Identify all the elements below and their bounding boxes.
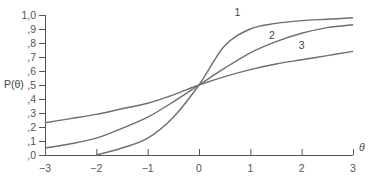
- y-tick-label: 1,0: [21, 9, 36, 21]
- x-tick-label: −1: [142, 162, 154, 174]
- y-tick-label: ,3: [27, 107, 36, 119]
- curves: 123: [45, 6, 353, 155]
- y-axis-ticks: ,0,1,2,3,4,5,6,7,8,91,0: [21, 9, 45, 161]
- x-tick-label: −2: [90, 162, 102, 174]
- curve-label-1: 1: [235, 6, 241, 18]
- y-tick-label: ,7: [27, 51, 36, 63]
- y-tick-label: ,6: [27, 65, 36, 77]
- icc-chart: ,0,1,2,3,4,5,6,7,8,91,0 −3−2−10123 P(θ) …: [0, 0, 368, 182]
- y-tick-label: ,4: [27, 93, 36, 105]
- x-tick-label: 1: [247, 162, 253, 174]
- y-tick-label: ,9: [27, 23, 36, 35]
- x-tick-label: 3: [350, 162, 356, 174]
- x-axis-title: θ: [359, 141, 365, 153]
- curve-label-3: 3: [299, 39, 305, 51]
- curve-label-2: 2: [269, 29, 275, 41]
- y-tick-label: ,5: [27, 79, 36, 91]
- y-axis-title: P(θ): [4, 78, 24, 90]
- curve-1: [96, 18, 353, 155]
- y-tick-label: ,8: [27, 37, 36, 49]
- y-tick-label: ,0: [27, 149, 36, 161]
- x-axis-ticks: −3−2−10123: [39, 149, 356, 174]
- x-tick-label: 2: [299, 162, 305, 174]
- curve-2: [45, 25, 353, 148]
- y-tick-label: ,1: [27, 135, 36, 147]
- x-tick-label: −3: [39, 162, 51, 174]
- curve-3: [45, 51, 353, 122]
- x-tick-label: 0: [196, 162, 202, 174]
- y-tick-label: ,2: [27, 121, 36, 133]
